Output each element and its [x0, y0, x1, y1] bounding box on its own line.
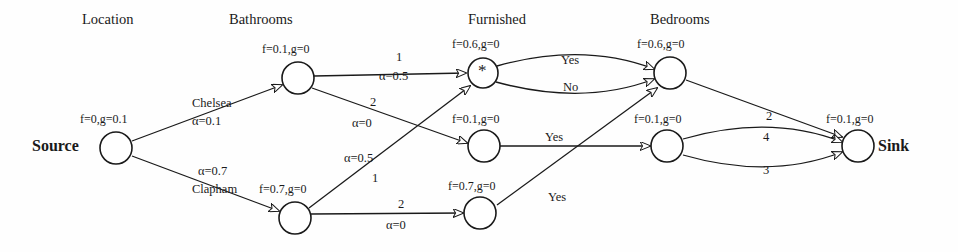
node-annotation-furn-mid: f=0.1,g=0 [452, 113, 500, 125]
node-sink[interactable] [842, 130, 874, 162]
node-bed-bot[interactable] [651, 130, 683, 162]
node-annotation-bed-bot: f=0.1,g=0 [634, 113, 682, 125]
node-annotation-sink: f=0.1,g=0 [826, 113, 874, 125]
node-annotation-bed-top: f=0.6,g=0 [637, 38, 685, 50]
edge-label-chelsea: Chelsea [192, 97, 232, 110]
edge-label-cap-sink-4: 4 [763, 131, 769, 144]
edge-bed-top-sink [686, 80, 842, 137]
node-layer [100, 57, 874, 234]
edge-label-alpha-bt-ft: α=0.5 [379, 70, 408, 83]
node-bed-top[interactable] [654, 57, 686, 89]
node-annotation-bath-top: f=0.1,g=0 [262, 43, 310, 55]
edge-label-alpha-bb-fb: α=0 [386, 219, 406, 232]
edge-label-yes-top: Yes [561, 54, 579, 67]
edge-label-clapham: Clapham [192, 183, 237, 196]
diagram-canvas: LocationBathroomsFurnishedBedroomsf=0,g=… [0, 0, 958, 252]
edge-label-yes-mid: Yes [545, 131, 563, 144]
node-source[interactable] [100, 132, 132, 164]
column-header-bathrooms: Bathrooms [229, 12, 293, 27]
node-annotation-furn-bot: f=0.7,g=0 [448, 180, 496, 192]
node-annotation-source: f=0,g=0.1 [80, 113, 128, 125]
edge-bath-top-furn-mid [312, 88, 467, 143]
node-bath-bot[interactable] [279, 202, 311, 234]
edge-label-cap-bed-sink: 2 [766, 110, 772, 123]
node-furn-mid[interactable] [468, 130, 500, 162]
node-annotation-furn-top: f=0.6,g=0 [452, 38, 500, 50]
node-glyph-furn-top: * [478, 62, 487, 79]
edge-label-alpha-chelsea: α=0.1 [192, 115, 221, 128]
terminal-label-sink: Sink [878, 138, 909, 154]
node-furn-bot[interactable] [464, 197, 496, 229]
edge-label-alpha-bb-ft: α=0.5 [344, 152, 373, 165]
edge-bath-bot-furn-top [309, 86, 470, 208]
edge-label-cap-sink-3: 3 [763, 164, 769, 177]
edge-label-cap-bt-ft: 1 [396, 51, 402, 64]
column-header-location: Location [82, 12, 134, 27]
edge-label-cap-bb-fb: 2 [398, 198, 404, 211]
edge-label-alpha-bt-fm: α=0 [352, 117, 372, 130]
terminal-label-source: Source [32, 138, 79, 154]
column-header-bedrooms: Bedrooms [650, 12, 710, 27]
node-annotation-bath-bot: f=0.7,g=0 [259, 183, 307, 195]
edge-label-cap-bb-ft: 1 [372, 172, 378, 185]
column-header-furnished: Furnished [468, 12, 526, 27]
edge-label-yes-bot: Yes [548, 191, 566, 204]
edge-label-cap-bt-fm: 2 [370, 96, 376, 109]
edge-label-alpha-clapham: α=0.7 [198, 165, 227, 178]
node-bath-top[interactable] [282, 62, 314, 94]
edge-source-bath-top [132, 85, 282, 141]
edge-label-no-top: No [563, 81, 578, 94]
edge-bath-bot-furn-bot [311, 213, 463, 214]
